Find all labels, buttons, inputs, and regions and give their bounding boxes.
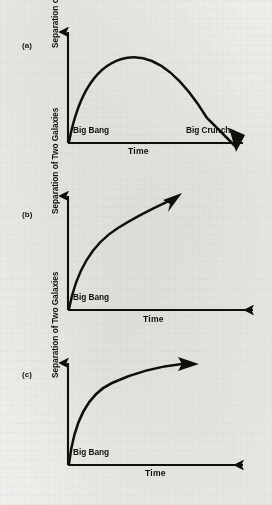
panel-a-big-bang-label: Big Bang [73,125,109,135]
big-crunch-arrowhead [229,128,245,152]
panel-a-x-axis-label: Time [128,146,149,156]
panel-a-big-crunch-label: Big Crunch [186,125,230,135]
panel-c-y-axis-label: Separation of Two Galaxies [50,272,60,378]
panel-c: (c) Separation of Two Galaxies Time Big … [0,336,272,505]
panel-a-label: (a) [22,41,32,50]
panel-c-x-axis-label: Time [145,468,166,478]
panel-b-label: (b) [22,210,33,219]
panel-b-big-bang-label: Big Bang [73,292,109,302]
panel-c-label: (c) [22,370,32,379]
panel-b-y-axis-label: Separation of Two Galaxies [50,108,60,214]
panel-b: (b) Separation of Two Galaxies Time Big … [0,168,272,338]
panel-b-x-axis-label: Time [143,314,164,324]
panel-c-big-bang-label: Big Bang [73,447,109,457]
panel-a: (a) Separation of Two Galaxies Time Big … [0,0,272,170]
panel-b-graphic [0,168,272,338]
panel-a-y-axis-label: Separation of Two Galaxies [50,0,60,48]
panel-a-graphic [0,0,272,170]
panel-c-graphic [0,336,272,505]
